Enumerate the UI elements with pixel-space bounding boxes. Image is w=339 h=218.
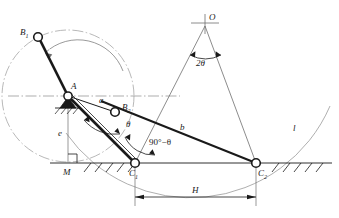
angle-arc-theta [84,120,120,134]
label-C1: C1 [129,168,138,180]
label-B1: B1 [20,27,29,39]
angle-arrowhead-ninety-end [149,149,155,155]
label-angle-ninety-minus-theta: 90°−θ [149,137,171,147]
angle-arrowhead-theta-end [114,128,120,134]
joint-B2 [111,108,120,117]
label-A: A [70,81,77,91]
rotation-direction-arc [45,40,123,71]
line-O-to-C2 [205,26,256,163]
joint-B1 [34,33,43,42]
diagram-canvas: B1 A B2 O M C1 C2 a b e l H θ [0,0,339,218]
joint-C2 [252,159,261,168]
dimension-arrowhead-H-left [135,195,144,200]
label-C2: C2 [258,168,267,180]
label-eccentricity-e: e [58,128,62,138]
fixed-support-hatching-at-A [55,108,78,114]
label-M: M [62,167,71,177]
dimension-arrowhead-H-right [247,195,256,200]
label-dimension-H: H [191,185,199,195]
joint-A [64,92,72,100]
label-angle-theta: θ [126,119,131,129]
label-length-a: a [99,95,104,105]
label-length-b: b [180,122,185,132]
crank-link-A-B1-inner [44,38,72,94]
label-arc-l: l [293,123,296,133]
label-angle-two-theta: 2θ [196,58,206,68]
label-O: O [209,12,216,22]
crank-link-A-B1-outer [40,40,68,96]
arc-path-trajectory [66,106,330,198]
label-B2: B2 [122,102,131,114]
joint-C1 [131,159,140,168]
mechanism-diagram: B1 A B2 O M C1 C2 a b e l H θ [0,0,339,218]
ground-hatching-left [84,163,135,172]
ground-hatching-right [272,163,323,172]
